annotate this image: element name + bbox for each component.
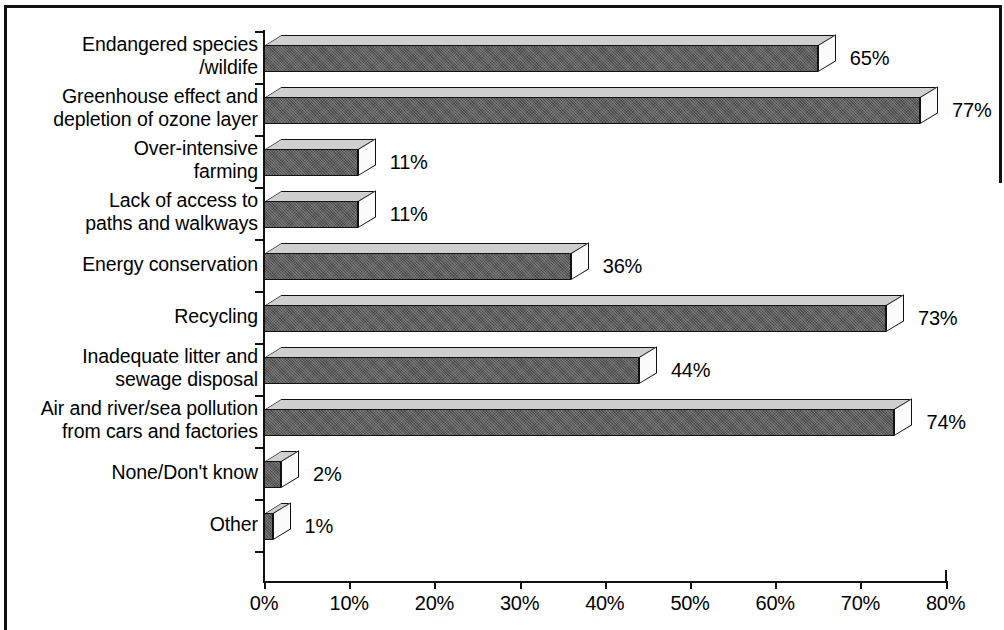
bar-row: Endangered species /wildife65%: [0, 30, 1004, 82]
category-label: Greenhouse effect and depletion of ozone…: [10, 82, 258, 134]
x-axis-tick-label: 40%: [570, 592, 640, 615]
y-axis-tick: [255, 551, 264, 553]
bar-value-label: 1%: [305, 515, 334, 538]
bar-value-label: 73%: [918, 307, 957, 330]
x-axis-tick-label: 10%: [314, 592, 384, 615]
bar-3d: 1%: [264, 503, 291, 530]
bar-row: Over-intensive farming11%: [0, 134, 1004, 186]
y-axis-tick: [255, 447, 264, 449]
bar-value-label: 44%: [671, 359, 710, 382]
bar-front-face: [264, 461, 281, 488]
category-label: Endangered species /wildife: [10, 30, 258, 82]
x-axis-tick: [946, 581, 948, 589]
y-axis-tick: [255, 135, 264, 137]
y-axis-tick: [255, 239, 264, 241]
bar-3d: 36%: [264, 243, 589, 270]
bar-front-face: [264, 149, 358, 176]
bar-front-face: [264, 201, 358, 228]
y-axis-tick: [255, 343, 264, 345]
bar-3d: 73%: [264, 295, 904, 322]
bar-value-label: 11%: [390, 151, 428, 174]
y-axis-tick: [255, 291, 264, 293]
x-axis-tick-label: 20%: [399, 592, 469, 615]
bar-3d: 11%: [264, 139, 376, 166]
x-axis-tick: [860, 581, 862, 589]
y-axis-tick: [255, 499, 264, 501]
x-axis-tick: [434, 581, 436, 589]
bar-front-face: [264, 253, 571, 280]
x-axis-tick-label: 60%: [740, 592, 810, 615]
bar-front-face: [264, 45, 818, 72]
category-label: Other: [10, 498, 258, 550]
bar-value-label: 65%: [850, 47, 889, 70]
x-axis-tick: [690, 581, 692, 589]
y-axis-tick: [255, 187, 264, 189]
chart-page: Endangered species /wildife65%Greenhouse…: [0, 0, 1004, 630]
category-label: Lack of access to paths and walkways: [10, 186, 258, 238]
x-axis-tick-label: 0%: [229, 592, 299, 615]
bar-3d: 65%: [264, 35, 836, 62]
bar-front-face: [264, 305, 886, 332]
bar-3d: 77%: [264, 87, 938, 114]
x-axis-tick: [775, 581, 777, 589]
bar-value-label: 77%: [952, 99, 991, 122]
category-label: None/Don't know: [10, 446, 258, 498]
bar-value-label: 2%: [313, 463, 342, 486]
bar-3d: 44%: [264, 347, 657, 374]
category-label: Inadequate litter and sewage disposal: [10, 342, 258, 394]
bar-row: Air and river/sea pollution from cars an…: [0, 394, 1004, 446]
bar-3d: 74%: [264, 399, 912, 426]
x-axis-tick: [520, 581, 522, 589]
x-axis-tick-label: 30%: [485, 592, 555, 615]
category-label: Energy conservation: [10, 238, 258, 290]
bar-row: Recycling73%: [0, 290, 1004, 342]
x-axis-tick-label: 80%: [911, 592, 981, 615]
x-axis-tick-label: 50%: [655, 592, 725, 615]
bar-value-label: 36%: [603, 255, 642, 278]
category-label: Air and river/sea pollution from cars an…: [10, 394, 258, 446]
bar-3d: 11%: [264, 191, 376, 218]
x-axis-tick: [605, 581, 607, 589]
x-axis-tick: [349, 581, 351, 589]
bar-chart-plot-area: Endangered species /wildife65%Greenhouse…: [0, 0, 1004, 630]
bar-row: Lack of access to paths and walkways11%: [0, 186, 1004, 238]
x-axis-tick-label: 70%: [825, 592, 895, 615]
bar-front-face: [264, 357, 639, 384]
bar-value-label: 74%: [926, 411, 965, 434]
bar-front-face: [264, 97, 920, 124]
bar-front-face: [264, 513, 273, 540]
x-axis-tick: [264, 581, 266, 589]
y-axis-tick: [255, 83, 264, 85]
bar-row: Other1%: [0, 498, 1004, 550]
y-axis-tick: [255, 31, 264, 33]
category-label: Recycling: [10, 290, 258, 342]
category-label: Over-intensive farming: [10, 134, 258, 186]
bar-front-face: [264, 409, 894, 436]
bar-row: Energy conservation36%: [0, 238, 1004, 290]
bar-row: None/Don't know2%: [0, 446, 1004, 498]
bar-row: Greenhouse effect and depletion of ozone…: [0, 82, 1004, 134]
bar-3d: 2%: [264, 451, 299, 478]
bar-value-label: 11%: [390, 203, 428, 226]
y-axis-tick: [255, 395, 264, 397]
bar-row: Inadequate litter and sewage disposal44%: [0, 342, 1004, 394]
